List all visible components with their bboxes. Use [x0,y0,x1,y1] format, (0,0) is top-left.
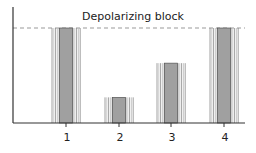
x-tick-label-1: 1 [57,131,77,144]
x-tick-label-4: 4 [215,131,235,144]
x-tick-label-3: 3 [162,131,182,144]
bar-1 [52,28,80,123]
bar-3 [157,63,185,123]
x-tick-label-2: 2 [110,131,130,144]
bar-4 [210,28,238,123]
bar-2 [105,97,133,123]
